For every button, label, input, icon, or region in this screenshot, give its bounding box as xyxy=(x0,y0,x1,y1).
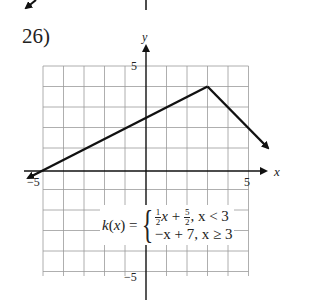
tick-label-y-min: −5 xyxy=(124,270,137,284)
tick-label-x-max: 5 xyxy=(244,175,250,189)
piece-1-line xyxy=(28,87,208,179)
problem-number: 26) xyxy=(22,26,50,47)
tick-label-x-min: −5 xyxy=(27,175,40,189)
piece-2-line xyxy=(208,87,269,149)
piece-2-expression: −x + 7, x ≥ 3 xyxy=(155,227,233,243)
previous-problem-fragment xyxy=(26,0,146,10)
function-lhs: k(x) = xyxy=(102,217,138,234)
y-axis-label: y xyxy=(141,30,148,44)
piecewise-cases: 12x + 52, x < 3 −x + 7, x ≥ 3 xyxy=(155,208,233,243)
piecewise-brace: { xyxy=(141,205,153,245)
tick-label-y-max: 5 xyxy=(131,59,137,73)
piece-1-expression: 12x + 52, x < 3 xyxy=(155,208,233,227)
x-axis-label: x xyxy=(273,164,280,179)
function-definition: k(x) = { 12x + 52, x < 3 −x + 7, x ≥ 3 xyxy=(100,205,234,245)
function-plot xyxy=(28,87,268,179)
